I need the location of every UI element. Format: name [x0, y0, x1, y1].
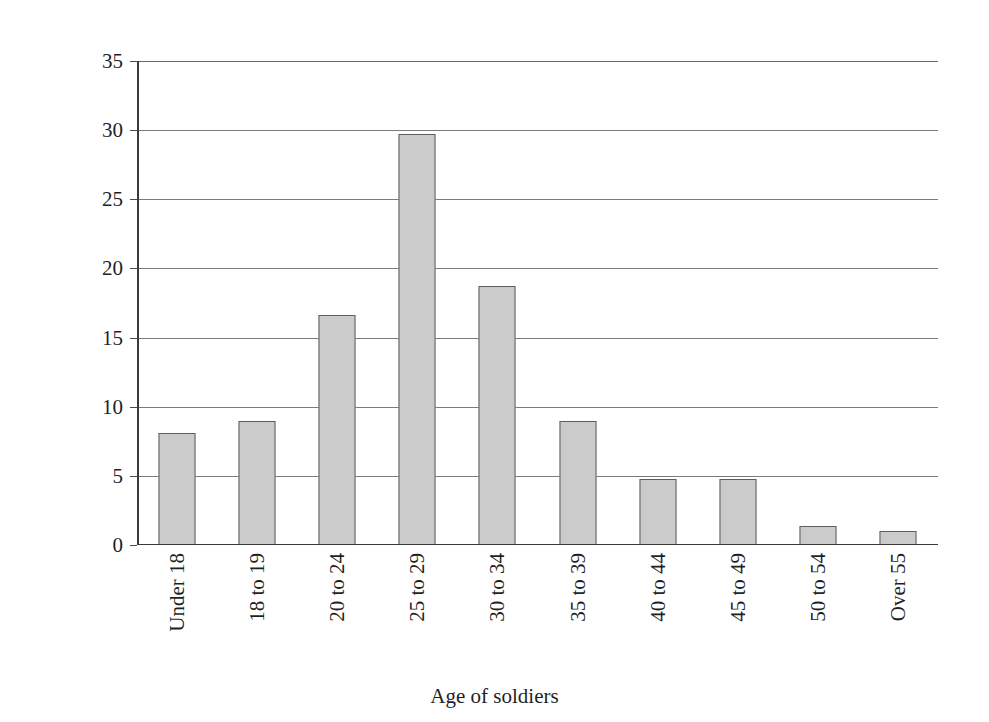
- y-tick-label-35: 35: [77, 51, 123, 72]
- y-tick-mark-10: [130, 407, 137, 408]
- bar: [639, 479, 676, 545]
- x-tick-label: 50 to 54: [807, 553, 828, 622]
- bar-band: [457, 61, 537, 545]
- x-tick-label: Over 55: [887, 553, 908, 621]
- y-tick-mark-5: [130, 476, 137, 477]
- y-tick-mark-20: [130, 268, 137, 269]
- x-tick-cell: 18 to 19: [217, 545, 297, 675]
- bar: [799, 526, 836, 545]
- bar-band: [137, 61, 217, 545]
- x-tick-cell: 20 to 24: [297, 545, 377, 675]
- x-tick-cell: Under 18: [137, 545, 217, 675]
- y-tick-mark-25: [130, 199, 137, 200]
- y-tick-label-25: 25: [77, 189, 123, 210]
- y-axis-tick-labels: 05101520253035: [77, 61, 123, 545]
- x-tick-cell: Over 55: [858, 545, 938, 675]
- x-tick-label: 25 to 29: [407, 553, 428, 622]
- y-tick-mark-35: [130, 61, 137, 62]
- bar: [559, 421, 596, 545]
- bar-band: [858, 61, 938, 545]
- x-tick-label: 18 to 19: [247, 553, 268, 622]
- y-tick-label-5: 5: [77, 465, 123, 486]
- y-tick-mark-0: [130, 545, 137, 546]
- x-axis-tick-labels: Under 1818 to 1920 to 2425 to 2930 to 34…: [137, 545, 938, 675]
- bar-chart-figure: % of whole Regiment 05101520253035 Under…: [0, 0, 989, 722]
- bar: [319, 315, 356, 545]
- bar-band: [377, 61, 457, 545]
- x-tick-cell: 35 to 39: [538, 545, 618, 675]
- x-tick-label: 45 to 49: [727, 553, 748, 622]
- x-tick-label: Under 18: [167, 553, 188, 632]
- x-tick-cell: 40 to 44: [618, 545, 698, 675]
- bar: [159, 433, 196, 545]
- x-tick-cell: 45 to 49: [698, 545, 778, 675]
- y-tick-label-10: 10: [77, 396, 123, 417]
- bar-band: [618, 61, 698, 545]
- x-tick-label: 30 to 34: [487, 553, 508, 622]
- x-tick-label: 20 to 24: [327, 553, 348, 622]
- y-tick-label-0: 0: [77, 535, 123, 556]
- y-axis-line: [137, 61, 139, 545]
- bar: [479, 286, 516, 545]
- bar: [719, 479, 756, 545]
- y-tick-label-15: 15: [77, 327, 123, 348]
- y-tick-label-20: 20: [77, 258, 123, 279]
- bar-band: [217, 61, 297, 545]
- y-tick-mark-15: [130, 338, 137, 339]
- bar: [399, 134, 436, 545]
- x-tick-cell: 25 to 29: [377, 545, 457, 675]
- x-tick-label: 40 to 44: [647, 553, 668, 622]
- x-tick-label: 35 to 39: [567, 553, 588, 622]
- bar-band: [538, 61, 618, 545]
- y-tick-label-30: 30: [77, 120, 123, 141]
- x-axis-title: Age of soldiers: [0, 684, 989, 708]
- x-tick-cell: 30 to 34: [457, 545, 537, 675]
- y-tick-mark-30: [130, 130, 137, 131]
- y-axis-title-container: % of whole Regiment: [0, 61, 60, 545]
- bar-band: [698, 61, 778, 545]
- x-tick-cell: 50 to 54: [778, 545, 858, 675]
- bar-band: [297, 61, 377, 545]
- bar-band: [778, 61, 858, 545]
- plot-area: [137, 61, 938, 545]
- bar: [239, 421, 276, 545]
